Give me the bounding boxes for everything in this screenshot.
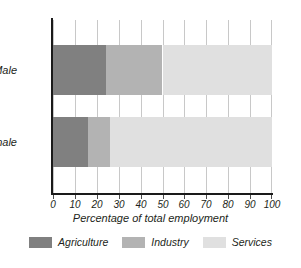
legend-label-services: Services [232, 236, 272, 248]
xtick-label-100: 100 [264, 199, 281, 210]
legend-item-agriculture: Agriculture [29, 236, 108, 248]
legend-item-services: Services [203, 236, 272, 248]
legend-label-agriculture: Agriculture [58, 236, 108, 248]
xtick-label-60: 60 [178, 199, 189, 210]
xtick-label-90: 90 [244, 199, 255, 210]
chart-legend: Agriculture Industry Services [0, 236, 301, 248]
xtick-label-20: 20 [91, 199, 102, 210]
y-axis-line [51, 18, 53, 195]
bar-segment-female-industry [88, 117, 110, 167]
xtick-label-50: 50 [157, 199, 168, 210]
bar-segment-female-agriculture [53, 117, 88, 167]
xtick-label-40: 40 [135, 199, 146, 210]
xtick-label-70: 70 [200, 199, 211, 210]
category-label-male: Male [0, 64, 17, 76]
legend-item-industry: Industry [122, 236, 188, 248]
plot-area [53, 20, 272, 193]
stacked-bar-chart: Male Female 0 10 20 30 40 50 60 70 80 90… [0, 0, 301, 268]
xtick-label-80: 80 [222, 199, 233, 210]
category-label-female: Female [0, 136, 17, 148]
x-axis-title: Percentage of total employment [0, 212, 301, 224]
legend-swatch-agriculture [29, 237, 52, 248]
legend-swatch-industry [122, 237, 145, 248]
legend-swatch-services [203, 237, 226, 248]
x-axis-line [51, 193, 273, 195]
xtick-label-30: 30 [113, 199, 124, 210]
bar-segment-male-industry [106, 45, 163, 95]
xtick-label-10: 10 [69, 199, 80, 210]
bar-segment-female-services [110, 117, 272, 167]
xtick-label-0: 0 [50, 199, 56, 210]
bar-segment-male-services [163, 45, 273, 95]
bar-segment-male-agriculture [53, 45, 106, 95]
legend-label-industry: Industry [151, 236, 188, 248]
